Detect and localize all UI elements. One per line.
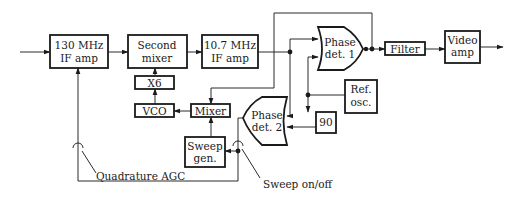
block-filter: Filter — [385, 42, 425, 55]
quadrature-agc-label: Quadrature AGC — [96, 170, 185, 182]
block-label: gen. — [193, 152, 216, 164]
block-label: Sweep — [187, 140, 223, 152]
block-mixer: Mixer — [191, 104, 230, 117]
block-ref-osc: Ref. osc. — [345, 80, 377, 113]
block-130mhz-if-amp: 130 MHz IF amp — [50, 35, 108, 68]
block-label: det. 1 — [325, 48, 356, 60]
block-sweep-gen: Sweep gen. — [185, 137, 225, 167]
block-label: mixer — [142, 52, 173, 64]
block-video-amp: Video amp — [445, 31, 480, 63]
block-label: 130 MHz — [55, 39, 104, 51]
block-label: 10.7 MHz — [204, 39, 257, 51]
block-second-mixer: Second mixer — [128, 35, 187, 68]
sweep-on-off-label: Sweep on/off — [263, 178, 334, 190]
block-label: Phase — [251, 109, 283, 121]
block-label: det. 2 — [252, 121, 283, 133]
block-10-7mhz-if-amp: 10.7 MHz IF amp — [202, 35, 258, 68]
receiver-block-diagram: 130 MHz IF amp Second mixer 10.7 MHz IF … — [0, 0, 519, 198]
block-label: IF amp — [60, 52, 98, 64]
block-label: Phase — [324, 36, 356, 48]
block-vco: VCO — [135, 104, 174, 117]
block-label: Ref. — [351, 83, 372, 95]
block-label: Second — [137, 39, 176, 51]
block-label: IF amp — [211, 52, 249, 64]
block-label: Filter — [390, 43, 420, 55]
block-phase-det-2: Phase det. 2 — [243, 97, 287, 145]
block-label: osc. — [351, 96, 372, 108]
block-label: 90 — [319, 116, 332, 128]
block-label: amp — [451, 46, 474, 58]
block-90-degree-shifter: 90 — [316, 112, 336, 133]
block-phase-det-1: Phase det. 1 — [318, 27, 363, 70]
block-x6-multiplier: X6 — [135, 76, 174, 89]
block-label: Video — [446, 34, 477, 46]
block-label: VCO — [141, 105, 167, 117]
block-label: Mixer — [195, 105, 227, 117]
block-label: X6 — [147, 77, 161, 89]
